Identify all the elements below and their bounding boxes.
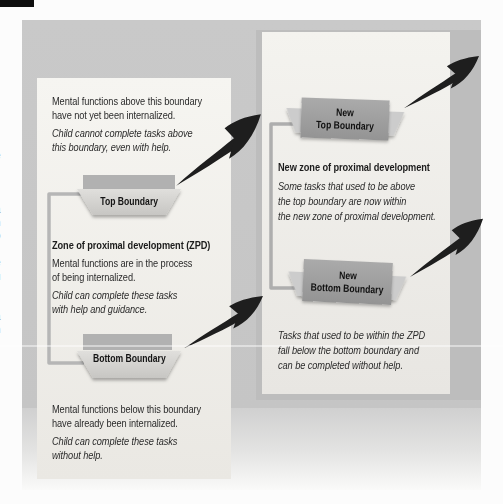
note-above-top-boundary: Mental functions above this boundary hav… — [52, 94, 202, 122]
new-zpd-heading: New zone of proximal development — [278, 160, 430, 175]
child-note-below: Child can complete these tasks without h… — [52, 434, 177, 462]
bottom-boundary-label: Bottom Boundary — [77, 352, 181, 364]
note-zpd: Mental functions are in the process of b… — [52, 256, 192, 284]
scan-crease-line — [0, 345, 503, 347]
top-boundary-label: Top Boundary — [77, 195, 181, 207]
child-note-zpd: Child can complete these tasks with help… — [52, 288, 177, 316]
flow-arrow-top-right-icon — [404, 56, 479, 108]
new-bottom-boundary-box: New Bottom Boundary — [302, 259, 393, 305]
new-top-boundary-box: New Top Boundary — [300, 97, 389, 140]
flow-arrow-bottom-left-icon — [184, 296, 263, 348]
new-zpd-note: Some tasks that used to be above the top… — [278, 179, 436, 224]
zpd-heading: Zone of proximal development (ZPD) — [52, 238, 210, 252]
tasks-below-note: Tasks that used to be within the ZPD fal… — [278, 328, 425, 373]
note-below-bottom-boundary: Mental functions below this boundary hav… — [52, 402, 201, 430]
flow-arrow-bottom-right-icon — [410, 219, 483, 277]
child-note-above: Child cannot complete tasks above this b… — [52, 126, 193, 154]
zpd-diagram: Mental functions above this boundary hav… — [0, 0, 503, 504]
